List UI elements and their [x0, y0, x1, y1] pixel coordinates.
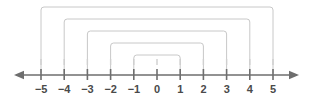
number-line-figure: −5−4−3−2−1012345	[0, 0, 313, 99]
tick-label--5: −5	[30, 83, 52, 95]
axis-right-arrowhead	[289, 71, 299, 79]
tick-dot-group	[41, 59, 273, 65]
tick-label--1: −1	[123, 83, 145, 95]
bracket--2-to-2	[111, 43, 204, 73]
tick-label-4: 4	[239, 83, 261, 95]
tick-label-2: 2	[192, 83, 214, 95]
tick-label-0: 0	[146, 83, 168, 95]
tick-label-5: 5	[262, 83, 284, 95]
tick-label-3: 3	[216, 83, 238, 95]
axis-left-arrowhead	[14, 71, 24, 79]
tick-label--4: −4	[53, 83, 75, 95]
tick-label-1: 1	[169, 83, 191, 95]
tick-label--3: −3	[76, 83, 98, 95]
tick-label--2: −2	[100, 83, 122, 95]
bracket--3-to-3	[87, 31, 226, 73]
